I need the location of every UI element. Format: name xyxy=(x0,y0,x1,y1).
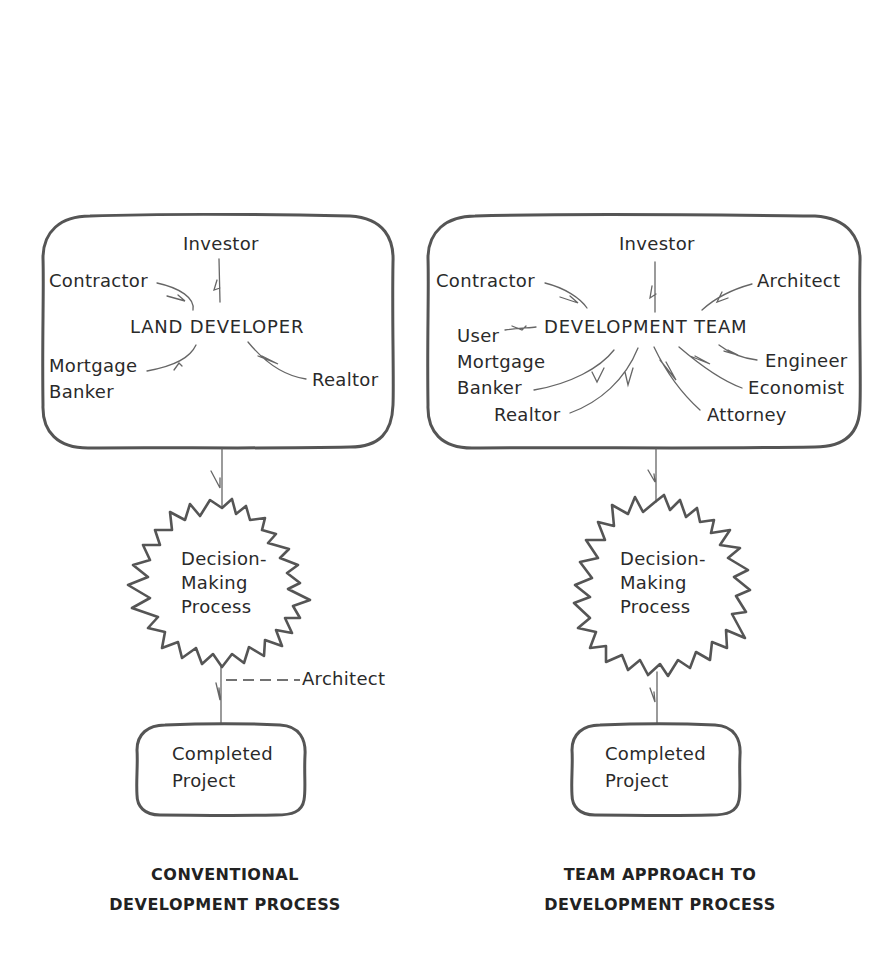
caption-line-1: TEAM APPROACH TO xyxy=(495,860,825,890)
arrow-mortgage-to-developer xyxy=(147,345,196,371)
caption-line-1: CONVENTIONAL xyxy=(60,860,390,890)
label-contractor-left: Contractor xyxy=(49,268,148,294)
label-attorney: Attorney xyxy=(707,402,787,428)
label-mortgage-banker-left: Mortgage Banker xyxy=(49,353,137,405)
arrow-engineer-to-team xyxy=(719,345,757,360)
arrow-realtor-to-team xyxy=(570,348,638,413)
label-realtor-left: Realtor xyxy=(312,367,378,393)
connector-box-to-process-right xyxy=(648,449,656,502)
label-architect-outside: Architect xyxy=(302,666,385,692)
arrow-user-to-team xyxy=(505,326,536,330)
arrow-attorney-to-team xyxy=(654,347,700,410)
label-decision-process-right: Decision- Making Process xyxy=(620,547,706,619)
connector-process-to-outcome-right xyxy=(650,672,657,724)
arrow-investor-to-developer xyxy=(214,259,220,302)
caption-team-approach: TEAM APPROACH TO DEVELOPMENT PROCESS xyxy=(495,860,825,920)
arrow-contractor-to-developer xyxy=(157,283,193,310)
caption-line-2: DEVELOPMENT PROCESS xyxy=(60,890,390,920)
label-development-team: DEVELOPMENT TEAM xyxy=(544,314,747,340)
label-realtor-right: Realtor xyxy=(494,402,560,428)
label-contractor-right: Contractor xyxy=(436,268,535,294)
arrow-architect-to-team xyxy=(702,284,752,310)
label-completed-project-left: Completed Project xyxy=(172,740,273,794)
label-economist: Economist xyxy=(748,375,844,401)
diagram-shapes xyxy=(0,0,890,965)
arrow-investor-to-team xyxy=(650,262,656,312)
label-investor-right: Investor xyxy=(619,231,695,257)
caption-line-2: DEVELOPMENT PROCESS xyxy=(495,890,825,920)
label-decision-process-left: Decision- Making Process xyxy=(181,547,267,619)
label-land-developer: LAND DEVELOPER xyxy=(130,314,304,340)
label-user: User xyxy=(457,323,499,349)
label-completed-project-right: Completed Project xyxy=(605,740,706,794)
connector-box-to-process-left xyxy=(211,449,222,508)
arrow-realtor-to-developer xyxy=(248,342,306,379)
caption-conventional: CONVENTIONAL DEVELOPMENT PROCESS xyxy=(60,860,390,920)
label-architect-right: Architect xyxy=(757,268,840,294)
label-investor-left: Investor xyxy=(183,231,259,257)
arrow-mortgage-to-team xyxy=(534,350,614,390)
arrow-contractor-to-team xyxy=(545,283,587,308)
diagram-canvas: Investor Contractor LAND DEVELOPER Mortg… xyxy=(0,0,890,965)
label-mortgage-banker-right: Mortgage Banker xyxy=(457,349,545,401)
label-engineer: Engineer xyxy=(765,348,848,374)
connector-process-to-outcome-left xyxy=(216,665,221,724)
